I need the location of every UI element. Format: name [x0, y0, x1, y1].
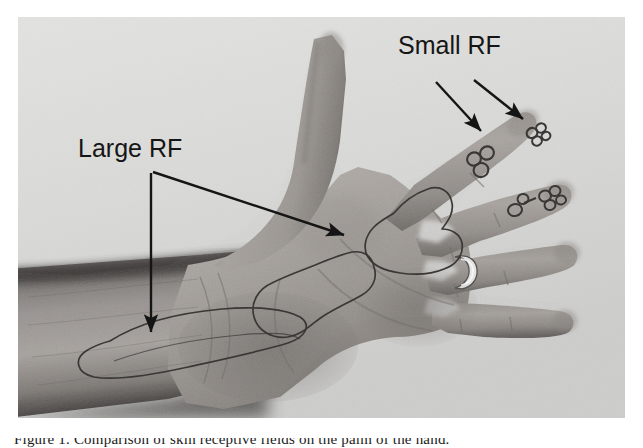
label-small-rf: Small RF	[398, 31, 501, 60]
label-large-rf: Large RF	[78, 134, 182, 163]
caption-strip: Figure 1. Comparison of skin receptive f…	[0, 438, 643, 448]
figure-root: Small RF Large RF Figure 1. Comparison o…	[0, 0, 643, 448]
large-rf-arrow-diagonal	[153, 172, 344, 235]
small-rf-arrow-right	[474, 80, 523, 119]
figure-caption: Figure 1. Comparison of skin receptive f…	[14, 438, 450, 448]
small-rf-arrow-left	[436, 82, 481, 131]
annotation-arrow-layer	[0, 0, 643, 448]
